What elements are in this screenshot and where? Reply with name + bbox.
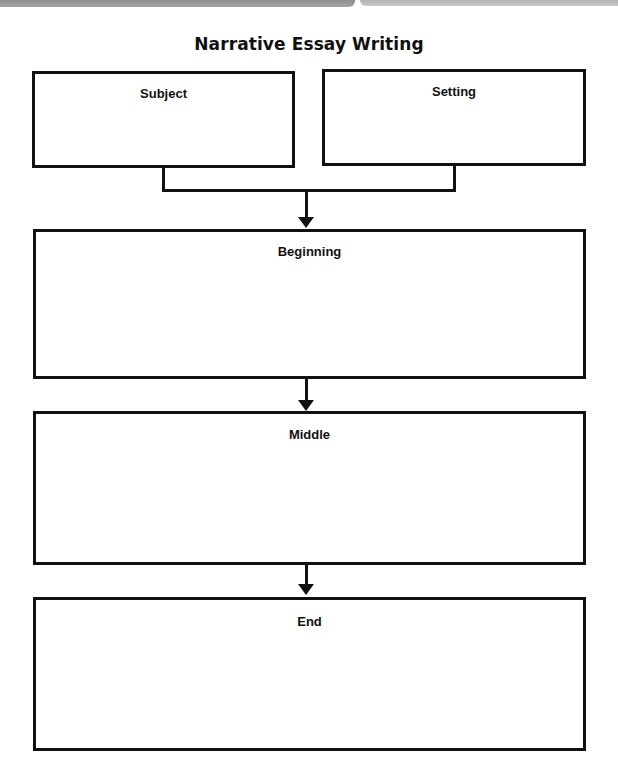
subject-box[interactable]: Subject	[32, 71, 295, 168]
middle-label: Middle	[36, 427, 583, 442]
middle-box[interactable]: Middle	[33, 411, 586, 565]
header-band-right	[360, 0, 618, 6]
arrow-shaft-3	[305, 564, 308, 586]
beginning-box[interactable]: Beginning	[33, 229, 586, 379]
arrow-shaft-1	[305, 190, 308, 218]
end-label: End	[36, 614, 583, 629]
merge-connector	[162, 189, 456, 192]
end-box[interactable]: End	[33, 597, 586, 751]
beginning-label: Beginning	[36, 244, 583, 259]
arrow-down-icon	[298, 584, 314, 595]
page-title: Narrative Essay Writing	[0, 34, 618, 54]
arrow-shaft-2	[305, 378, 308, 402]
setting-connector	[453, 165, 456, 192]
setting-box[interactable]: Setting	[322, 69, 586, 166]
arrow-down-icon	[298, 400, 314, 411]
arrow-down-icon	[298, 217, 314, 228]
header-band-left	[0, 0, 355, 7]
setting-label: Setting	[325, 84, 583, 99]
subject-label: Subject	[35, 86, 292, 101]
